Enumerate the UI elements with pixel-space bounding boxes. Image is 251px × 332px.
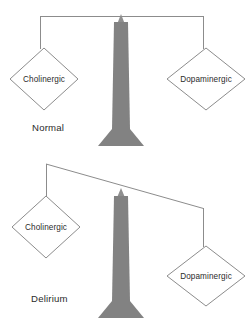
panel-normal: Cholinergic Dopaminergic Normal <box>10 14 245 146</box>
fulcrum-shaft-normal <box>112 22 130 129</box>
state-label-normal: Normal <box>32 122 64 133</box>
label-dopaminergic-normal: Dopaminergic <box>180 75 232 84</box>
fulcrum-base-delirium <box>98 301 144 318</box>
label-cholinergic-normal: Cholinergic <box>23 75 65 84</box>
fulcrum-shaft-delirium <box>112 196 130 301</box>
state-label-delirium: Delirium <box>31 293 68 304</box>
fulcrum-base-normal <box>98 129 144 146</box>
label-cholinergic-delirium: Cholinergic <box>25 223 67 232</box>
balance-scale-figure: Cholinergic Dopaminergic Normal Choliner… <box>0 0 251 332</box>
panel-delirium: Cholinergic Dopaminergic Delirium <box>12 164 245 318</box>
scale-diagram-svg: Cholinergic Dopaminergic Normal Choliner… <box>0 0 251 332</box>
label-dopaminergic-delirium: Dopaminergic <box>180 272 232 281</box>
